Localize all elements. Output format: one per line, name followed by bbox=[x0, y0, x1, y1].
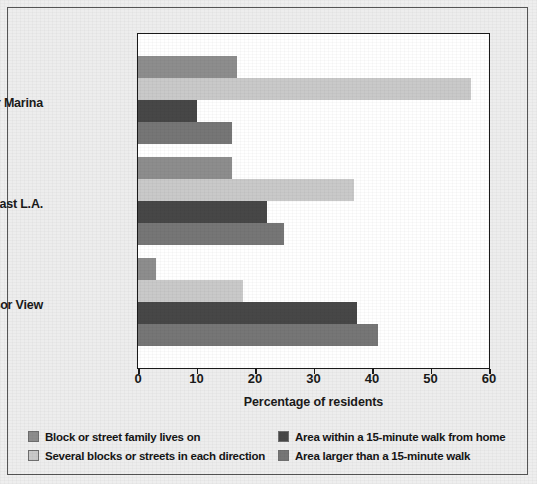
legend-swatch-icon-series-3 bbox=[278, 431, 289, 442]
bar-east-l-a--series-2 bbox=[138, 179, 354, 201]
x-tick-label-50: 50 bbox=[411, 371, 451, 386]
legend-label-series-4: Area larger than a 15-minute walk bbox=[295, 450, 470, 462]
legend-label-series-3: Area within a 15-minute walk from home bbox=[295, 431, 505, 443]
bar-east-l-a--series-4 bbox=[138, 223, 284, 245]
category-label-windsor-view: Windsor View bbox=[0, 298, 43, 312]
chart-figure: Culver Marina East L.A. Windsor View 010… bbox=[0, 0, 537, 484]
x-tick-label-40: 40 bbox=[352, 371, 392, 386]
bar-east-l-a--series-1 bbox=[138, 157, 232, 179]
legend-item-larger-than-15-min-walk: Area larger than a 15-minute walk bbox=[278, 446, 508, 465]
bar-east-l-a--series-3 bbox=[138, 201, 267, 223]
category-label-east-la: East L.A. bbox=[0, 197, 43, 211]
legend-item-several-blocks: Several blocks or streets in each direct… bbox=[28, 446, 278, 465]
legend-swatch-icon-series-2 bbox=[28, 450, 39, 461]
x-tick-label-10: 10 bbox=[177, 371, 217, 386]
bar-culver-marina-series-4 bbox=[138, 122, 232, 144]
chart-legend: Block or street family lives on Area wit… bbox=[28, 427, 508, 465]
legend-item-within-15-min-walk: Area within a 15-minute walk from home bbox=[278, 427, 508, 446]
legend-label-series-2: Several blocks or streets in each direct… bbox=[45, 450, 265, 462]
bar-culver-marina-series-1 bbox=[138, 56, 237, 78]
bar-windsor-view-series-4 bbox=[138, 324, 378, 346]
legend-label-series-1: Block or street family lives on bbox=[45, 431, 200, 443]
plot-area bbox=[137, 33, 490, 369]
bar-culver-marina-series-3 bbox=[138, 100, 197, 122]
legend-item-block-or-street: Block or street family lives on bbox=[28, 427, 278, 446]
x-tick-label-0: 0 bbox=[118, 371, 158, 386]
x-tick-label-30: 30 bbox=[294, 371, 334, 386]
bar-windsor-view-series-2 bbox=[138, 280, 243, 302]
bar-windsor-view-series-3 bbox=[138, 302, 357, 324]
bar-windsor-view-series-1 bbox=[138, 258, 156, 280]
legend-swatch-icon-series-4 bbox=[278, 450, 289, 461]
category-label-culver-marina: Culver Marina bbox=[0, 96, 43, 110]
legend-swatch-icon-series-1 bbox=[28, 431, 39, 442]
x-tick-label-20: 20 bbox=[235, 371, 275, 386]
x-axis-title: Percentage of residents bbox=[137, 395, 490, 409]
x-tick-label-60: 60 bbox=[469, 371, 509, 386]
bar-culver-marina-series-2 bbox=[138, 78, 471, 100]
